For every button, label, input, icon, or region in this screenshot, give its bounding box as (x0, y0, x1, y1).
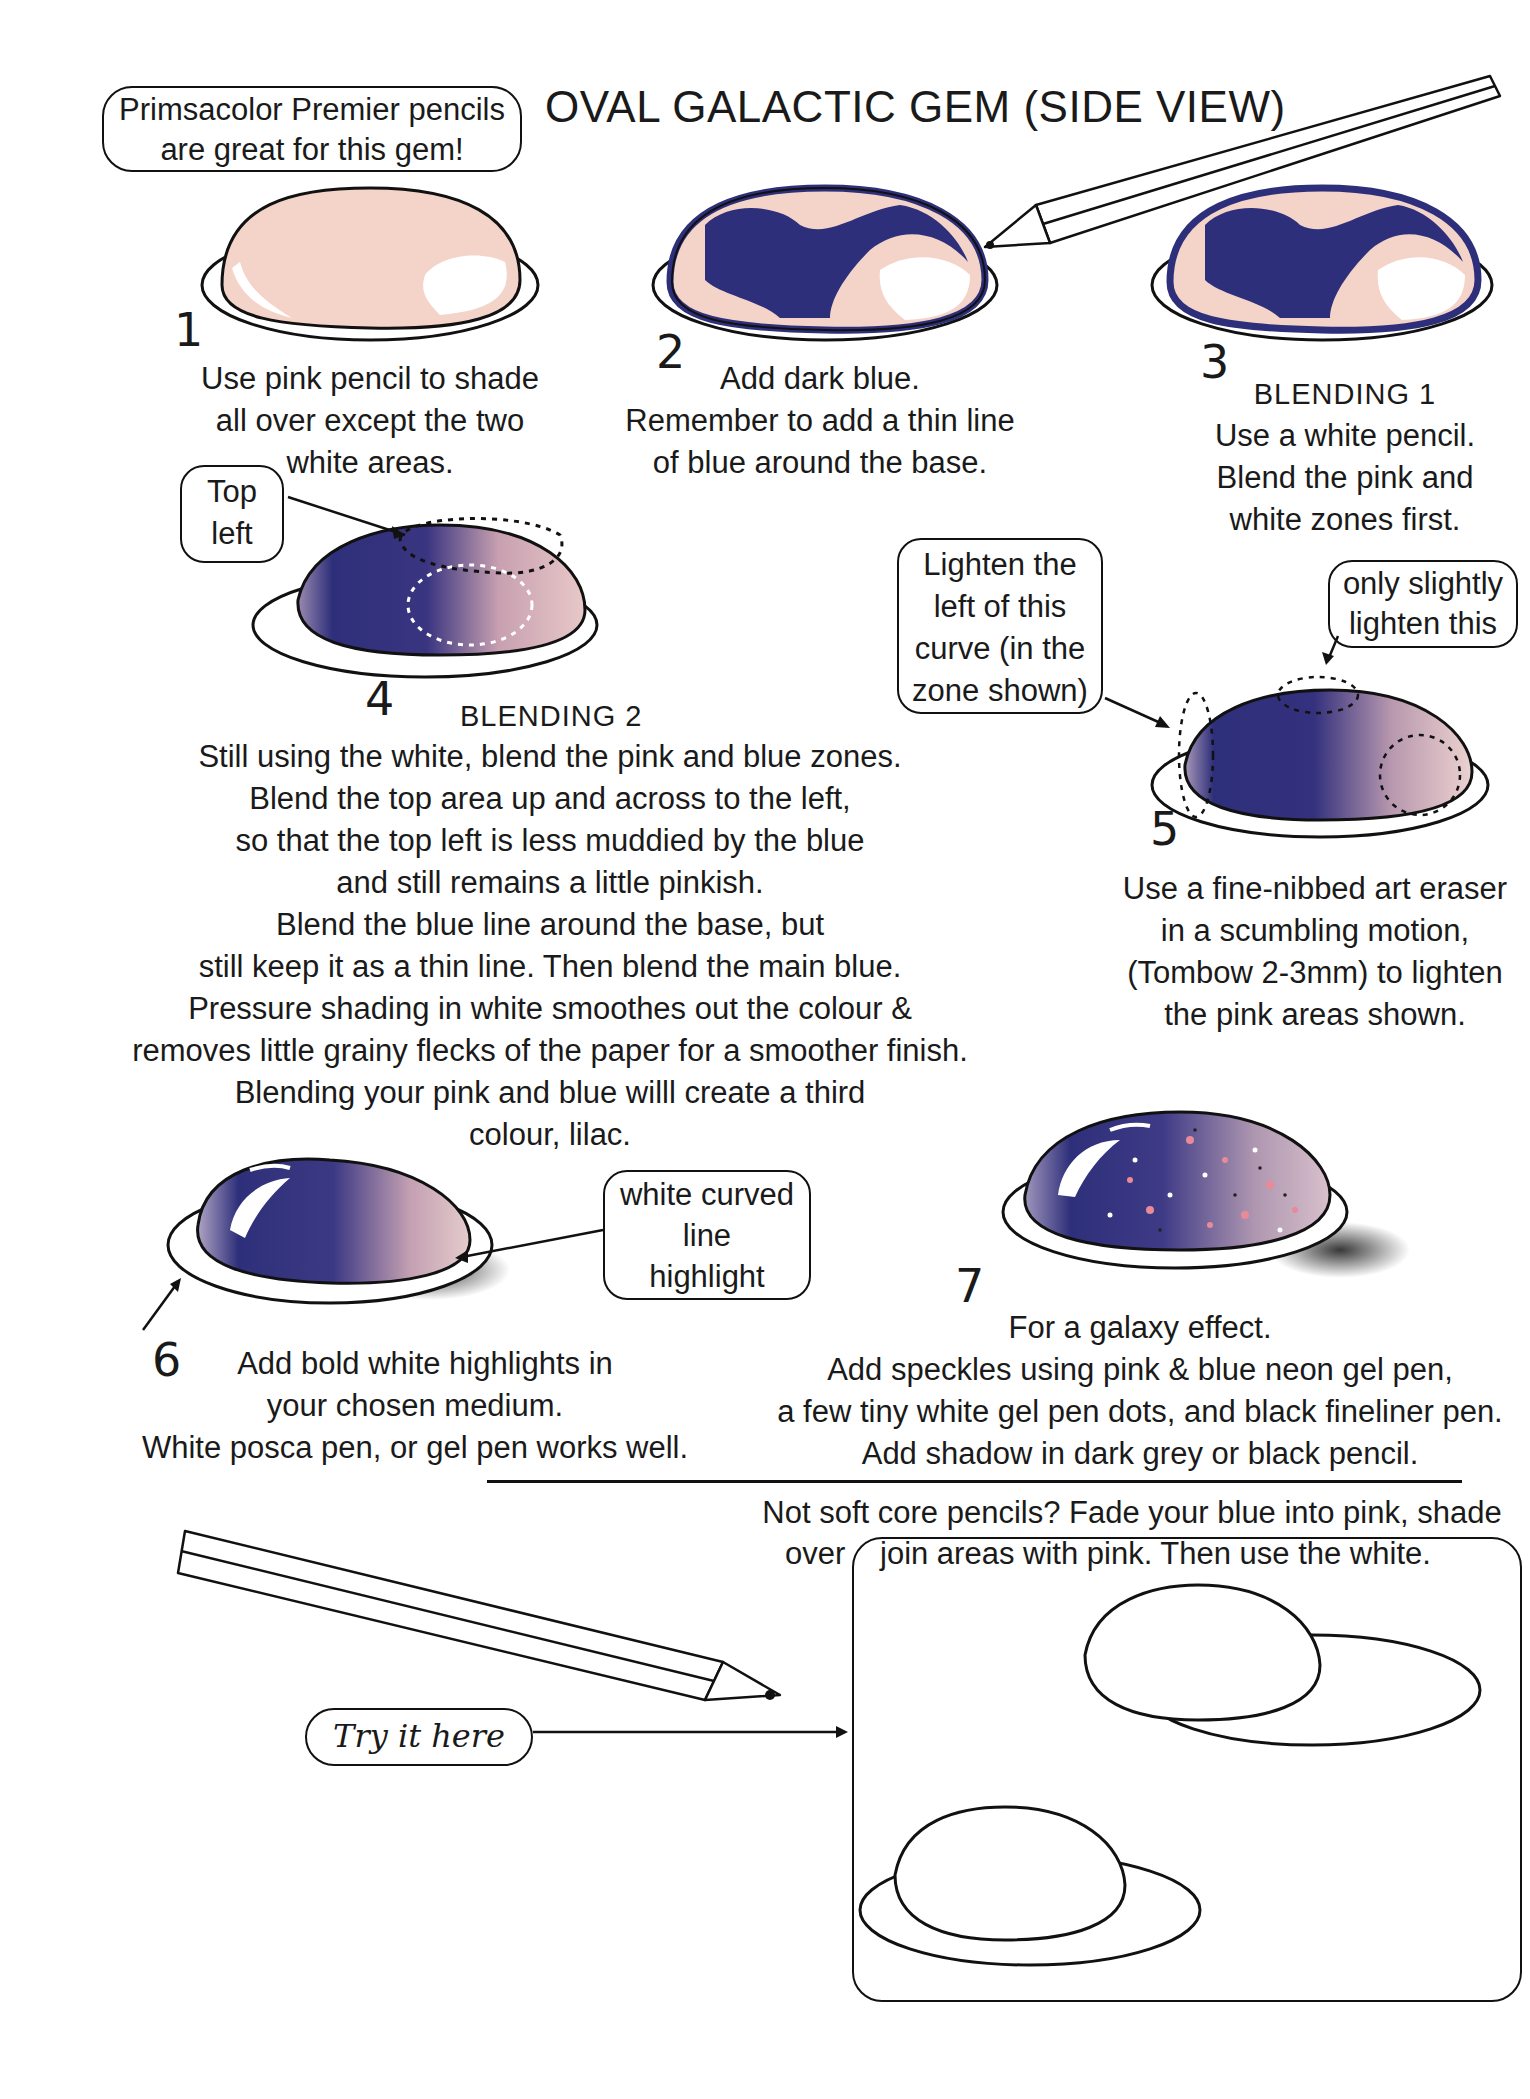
arrow-icon (0, 0, 1530, 2099)
